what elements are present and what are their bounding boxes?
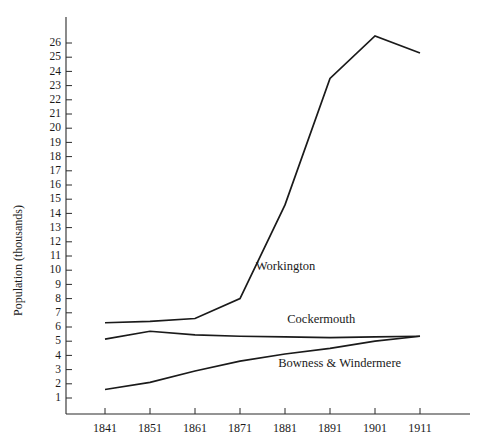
- y-tick-label: 9: [55, 278, 61, 290]
- y-tick-label: 3: [55, 363, 61, 375]
- series-annotations: WorkingtonCockermouthBowness & Windermer…: [256, 259, 402, 370]
- y-tick-label: 12: [50, 235, 62, 247]
- y-tick-label: 22: [50, 93, 62, 105]
- x-tick-label: 1891: [318, 421, 342, 435]
- y-tick-label: 24: [50, 65, 62, 77]
- x-tick-label: 1851: [138, 421, 162, 435]
- y-tick-label: 5: [55, 334, 61, 346]
- y-tick-label: 25: [50, 50, 62, 62]
- y-tick-label: 14: [50, 207, 62, 219]
- y-axis-ticks: 1234567891011121314151617181920212223242…: [50, 36, 73, 403]
- y-axis-title: Population (thousands): [11, 205, 25, 316]
- y-tick-label: 21: [50, 107, 62, 119]
- x-axis-ticks: 18411851186118711881189119011911: [93, 408, 432, 435]
- y-tick-label: 2: [55, 377, 61, 389]
- series-lines: [105, 36, 420, 390]
- x-tick-label: 1861: [183, 421, 207, 435]
- x-axis-group: 18411851186118711881189119011911: [66, 408, 470, 435]
- y-tick-label: 4: [55, 349, 61, 361]
- x-tick-label: 1871: [228, 421, 252, 435]
- series-label-bowness-windermere: Bowness & Windermere: [278, 356, 401, 370]
- x-tick-label: 1911: [408, 421, 432, 435]
- y-tick-label: 18: [50, 150, 62, 162]
- y-axis-group: 1234567891011121314151617181920212223242…: [11, 17, 72, 414]
- y-tick-label: 1: [55, 391, 61, 403]
- y-tick-label: 23: [50, 79, 62, 91]
- x-tick-label: 1841: [93, 421, 117, 435]
- y-tick-label: 17: [50, 164, 62, 176]
- y-tick-label: 11: [50, 249, 61, 261]
- series-line-cockermouth: [105, 331, 420, 339]
- y-tick-label: 7: [55, 306, 61, 318]
- y-tick-label: 26: [50, 36, 62, 48]
- y-tick-label: 19: [50, 136, 62, 148]
- y-tick-label: 8: [55, 292, 61, 304]
- series-label-workington: Workington: [256, 259, 316, 273]
- y-tick-label: 13: [50, 221, 62, 233]
- population-line-chart: 1234567891011121314151617181920212223242…: [0, 0, 478, 448]
- x-tick-label: 1901: [363, 421, 387, 435]
- y-tick-label: 20: [50, 121, 62, 133]
- x-tick-label: 1881: [273, 421, 297, 435]
- y-tick-label: 15: [50, 192, 62, 204]
- series-label-cockermouth: Cockermouth: [287, 312, 356, 326]
- series-line-workington: [105, 36, 420, 323]
- chart-canvas: 1234567891011121314151617181920212223242…: [0, 0, 478, 448]
- y-tick-label: 16: [50, 178, 62, 190]
- y-tick-label: 10: [50, 263, 62, 275]
- y-tick-label: 6: [55, 320, 61, 332]
